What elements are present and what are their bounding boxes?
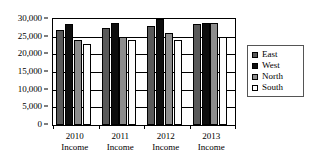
bars-layer <box>53 19 235 125</box>
x-axis-tick-label-line: Income <box>107 142 134 153</box>
y-axis-tick-mark <box>44 18 48 19</box>
x-axis-tick-label-line: 2010 <box>61 131 88 142</box>
y-axis-tick-mark <box>44 88 48 89</box>
x-axis-tick-label-line: 2012 <box>152 131 179 142</box>
legend-item[interactable]: East <box>252 49 299 60</box>
y-axis-tick-mark <box>44 124 48 125</box>
legend-swatch-icon <box>252 52 258 58</box>
x-axis-tick-label-line: Income <box>61 142 88 153</box>
x-axis-tick-label-line: Income <box>152 142 179 153</box>
bar-group <box>53 19 99 125</box>
bar <box>128 40 136 125</box>
bar <box>210 23 218 125</box>
bar <box>165 33 173 125</box>
bar-chart: 30,00025,00020,00015,00010,0005,0000 201… <box>0 0 319 164</box>
legend-swatch-icon <box>252 74 258 80</box>
x-axis-tick-label: 2013Income <box>198 131 225 153</box>
legend-label: West <box>262 61 280 70</box>
x-axis-tick-label-line: 2011 <box>107 131 134 142</box>
x-axis-tick-mark <box>144 126 145 129</box>
bar <box>219 37 227 125</box>
y-axis-tick-label: 20,000 <box>18 49 42 58</box>
x-axis-tick-mark <box>99 126 100 129</box>
y-axis-tick-mark <box>44 106 48 107</box>
x-axis-tick-mark <box>235 126 236 129</box>
legend-label: North <box>262 72 283 81</box>
bar <box>74 40 82 125</box>
x-axis: 2010Income2011Income2012Income2013Income <box>52 128 236 162</box>
y-axis-tick-label: 5,000 <box>22 102 42 111</box>
bar <box>83 44 91 125</box>
legend-swatch-icon <box>252 85 258 91</box>
bar-group <box>190 19 236 125</box>
legend-item[interactable]: North <box>252 71 299 82</box>
legend-label: South <box>262 83 283 92</box>
bar <box>193 24 201 125</box>
y-axis-tick-label: 10,000 <box>18 84 42 93</box>
bar <box>111 23 119 125</box>
y-axis: 30,00025,00020,00015,00010,0005,0000 <box>0 18 48 126</box>
x-axis-tick-label: 2010Income <box>61 131 88 153</box>
y-axis-tick-mark <box>44 53 48 54</box>
y-axis-tick-label: 30,000 <box>18 14 42 23</box>
y-axis-tick-label: 0 <box>38 120 42 129</box>
bar-group <box>144 19 190 125</box>
legend-item[interactable]: South <box>252 82 299 93</box>
legend: EastWestNorthSouth <box>247 45 304 97</box>
legend-swatch-icon <box>252 63 258 69</box>
bar <box>174 40 182 125</box>
bar <box>65 24 73 125</box>
bar <box>147 26 155 125</box>
bar <box>102 28 110 125</box>
y-axis-tick-label: 15,000 <box>18 67 42 76</box>
y-axis-tick-mark <box>44 35 48 36</box>
x-axis-tick-label-line: 2013 <box>198 131 225 142</box>
x-axis-tick-label-line: Income <box>198 142 225 153</box>
bar <box>202 23 210 125</box>
legend-item[interactable]: West <box>252 60 299 71</box>
bar <box>156 19 164 125</box>
x-axis-tick-mark <box>53 126 54 129</box>
legend-label: East <box>262 50 278 59</box>
bar-group <box>99 19 145 125</box>
y-axis-tick-label: 25,000 <box>18 31 42 40</box>
x-axis-tick-label: 2012Income <box>152 131 179 153</box>
x-axis-tick-label: 2011Income <box>107 131 134 153</box>
bar <box>119 37 127 125</box>
bar <box>56 30 64 125</box>
y-axis-tick-mark <box>44 71 48 72</box>
x-axis-tick-mark <box>190 126 191 129</box>
